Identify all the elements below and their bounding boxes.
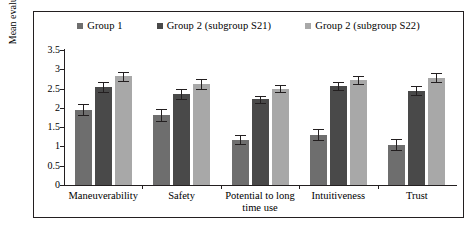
error-bar-cap-top: [255, 96, 266, 97]
error-bar-cap-bottom: [98, 92, 109, 93]
bar[interactable]: [95, 87, 112, 185]
legend-item[interactable]: Group 2 (subgroup S22): [305, 21, 420, 32]
error-bar-cap-bottom: [411, 95, 422, 96]
error-bar: [176, 89, 187, 99]
x-axis-category-label: Trust: [372, 190, 462, 202]
error-bar-cap-top: [156, 109, 167, 110]
x-axis-tick: [142, 185, 143, 189]
legend-item-label: Group 2 (subgroup S22): [315, 21, 420, 32]
error-bar-cap-bottom: [235, 144, 246, 145]
bar[interactable]: [272, 89, 289, 185]
error-bar-cap-top: [333, 82, 344, 83]
error-bar-cap-bottom: [313, 140, 324, 141]
y-axis-tick-label: 3.5: [34, 45, 60, 55]
legend-item[interactable]: Group 1: [77, 21, 122, 32]
error-bar-line: [103, 82, 104, 92]
error-bar-cap-top: [98, 82, 109, 83]
error-bar-line: [416, 86, 417, 95]
error-bar-cap-top: [275, 85, 286, 86]
bar-group: [310, 50, 367, 185]
y-axis-title: Mean evaluation score: [6, 0, 20, 64]
error-bar-cap-top: [411, 86, 422, 87]
bar[interactable]: [193, 84, 210, 185]
x-axis-line: [64, 185, 457, 186]
error-bar: [431, 73, 442, 82]
error-bar-cap-top: [353, 76, 364, 77]
error-bar-line: [83, 104, 84, 115]
error-bar-cap-bottom: [275, 92, 286, 93]
bar[interactable]: [428, 78, 445, 185]
y-axis-tick-label: 0.5: [34, 161, 60, 171]
error-bar: [78, 104, 89, 115]
x-axis-category-label: Maneuverability: [58, 190, 148, 202]
bar-group: [388, 50, 445, 185]
error-bar-line: [240, 135, 241, 144]
bar[interactable]: [330, 86, 347, 185]
error-bar: [235, 135, 246, 144]
error-bar: [333, 82, 344, 90]
legend-item-label: Group 2 (subgroup S21): [167, 21, 272, 32]
error-bar-line: [260, 96, 261, 104]
x-axis-tick: [221, 185, 222, 189]
bar[interactable]: [153, 115, 170, 185]
y-axis-tick-label: 2: [34, 103, 60, 113]
y-axis-tick-label: 3: [34, 64, 60, 74]
error-bar-line: [123, 72, 124, 81]
bar[interactable]: [232, 140, 249, 186]
error-bar-cap-bottom: [353, 84, 364, 85]
y-axis-tick-label: 1.5: [34, 122, 60, 132]
x-axis-tick: [299, 185, 300, 189]
error-bar-cap-bottom: [196, 89, 207, 90]
legend-item-label: Group 1: [87, 21, 122, 32]
error-bar: [156, 109, 167, 121]
chart-legend: Group 1Group 2 (subgroup S21)Group 2 (su…: [33, 18, 464, 34]
error-bar-cap-bottom: [431, 82, 442, 83]
error-bar-cap-top: [176, 89, 187, 90]
y-axis-tick: [60, 185, 64, 186]
error-bar-cap-bottom: [255, 103, 266, 104]
bar[interactable]: [252, 99, 269, 185]
x-axis-category-label: Safety: [136, 190, 226, 202]
error-bar-line: [396, 139, 397, 151]
error-bar-line: [436, 73, 437, 82]
x-axis-category-label: Potential to long time use: [215, 190, 305, 214]
bar[interactable]: [115, 76, 132, 185]
error-bar-line: [358, 76, 359, 84]
legend-swatch-icon: [77, 23, 83, 29]
error-bar-cap-top: [235, 135, 246, 136]
error-bar: [118, 72, 129, 81]
bar-group: [75, 50, 132, 185]
legend-item[interactable]: Group 2 (subgroup S21): [157, 21, 272, 32]
error-bar-cap-top: [391, 139, 402, 140]
y-axis-tick-label: 2.5: [34, 84, 60, 94]
error-bar: [255, 96, 266, 104]
error-bar: [353, 76, 364, 84]
bar[interactable]: [350, 80, 367, 185]
error-bar-cap-bottom: [333, 90, 344, 91]
error-bar-cap-bottom: [176, 99, 187, 100]
error-bar-line: [201, 79, 202, 88]
bar[interactable]: [408, 91, 425, 186]
error-bar-cap-top: [313, 129, 324, 130]
error-bar-line: [161, 109, 162, 121]
y-axis-tick-label: 1: [34, 141, 60, 151]
error-bar-line: [280, 85, 281, 93]
bar[interactable]: [310, 135, 327, 185]
bar-group: [232, 50, 289, 185]
bar-group: [153, 50, 210, 185]
x-axis-category-labels: ManeuverabilitySafetyPotential to long t…: [64, 190, 457, 218]
error-bar: [313, 129, 324, 140]
error-bar-cap-bottom: [391, 150, 402, 151]
error-bar: [196, 79, 207, 88]
error-bar-cap-top: [118, 72, 129, 73]
error-bar-cap-top: [196, 79, 207, 80]
figure-container: Group 1Group 2 (subgroup S21)Group 2 (su…: [0, 0, 475, 229]
error-bar-cap-bottom: [156, 121, 167, 122]
error-bar-cap-top: [431, 73, 442, 74]
legend-swatch-icon: [305, 23, 311, 29]
error-bar-cap-top: [78, 104, 89, 105]
bar[interactable]: [75, 110, 92, 185]
y-axis-tick-label: 0: [34, 180, 60, 190]
bar[interactable]: [173, 94, 190, 185]
error-bar: [98, 82, 109, 92]
